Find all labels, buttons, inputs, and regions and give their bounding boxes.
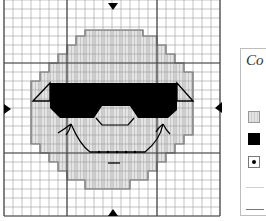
legend-title: Co [246, 52, 264, 69]
cross-stitch-chart [0, 0, 226, 221]
legend-swatch-dot [248, 156, 260, 168]
legend-line-dark [246, 209, 264, 210]
color-key-panel: Co [240, 48, 266, 216]
legend-swatch-light-fill [248, 111, 260, 123]
legend-line-light [246, 187, 264, 188]
legend-swatch-black [248, 133, 260, 145]
